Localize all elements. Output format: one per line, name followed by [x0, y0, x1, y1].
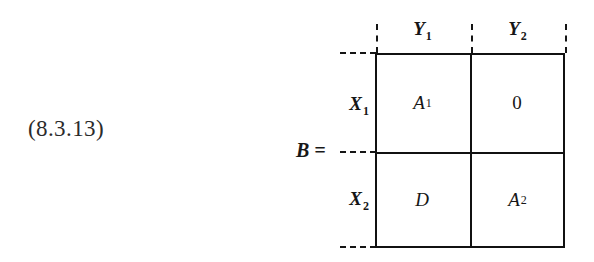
row-header-subscript: 2: [363, 199, 369, 213]
matrix-cell: D: [375, 152, 470, 248]
dashed-tick-horizontal-bottom: [340, 246, 376, 248]
row-header-base: X: [349, 188, 362, 209]
column-header-subscript: 2: [521, 29, 527, 43]
cell-base: A: [508, 189, 520, 211]
matrix-column-header-1: Y1: [375, 18, 470, 40]
document-page: (8.3.13) B = Y1 Y2 X1 X2 A1 0 D A2: [0, 0, 594, 262]
column-header-subscript: 1: [426, 29, 432, 43]
matrix-cell: 0: [470, 53, 565, 152]
cell-base: 0: [512, 92, 522, 114]
column-header-base: Y: [413, 18, 425, 39]
dashed-tick-horizontal-middle: [340, 151, 376, 153]
matrix-column-header-2: Y2: [470, 18, 565, 40]
cell-base: A: [413, 92, 425, 114]
column-header-base: Y: [508, 18, 520, 39]
row-header-subscript: 1: [363, 104, 369, 118]
dashed-tick-vertical-right: [565, 24, 567, 53]
block-matrix: A1 0 D A2: [375, 53, 565, 248]
matrix-lhs-label: B =: [296, 139, 326, 162]
row-header-base: X: [349, 93, 362, 114]
matrix-cell: A2: [470, 152, 565, 248]
cell-base: D: [415, 189, 429, 211]
matrix-cell: A1: [375, 53, 470, 152]
equation-number: (8.3.13): [28, 116, 104, 142]
dashed-tick-horizontal-top: [340, 52, 376, 54]
matrix-row-header-2: X2: [337, 188, 369, 210]
matrix-row-header-1: X1: [337, 93, 369, 115]
